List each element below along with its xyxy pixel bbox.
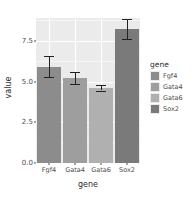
error-bar-cap-lower	[70, 84, 81, 85]
legend-key	[150, 82, 160, 92]
legend-label: Sox2	[163, 105, 179, 113]
legend-title: gene	[150, 60, 192, 69]
legend-label: Gata6	[163, 94, 183, 102]
error-bar-line	[49, 56, 50, 77]
error-bar-cap-upper	[70, 72, 81, 73]
legend-key	[150, 71, 160, 81]
legend-item[interactable]: Gata4	[150, 82, 192, 92]
legend-swatch	[151, 105, 159, 113]
x-tick-label: Gata6	[91, 166, 111, 174]
legend-items: Fgf4Gata4Gata6Sox2	[150, 71, 192, 114]
legend-label: Gata4	[163, 83, 183, 91]
error-bar-cap-upper	[96, 85, 107, 86]
x-tick-label: Gata4	[65, 166, 85, 174]
legend-item[interactable]: Sox2	[150, 104, 192, 114]
plot-panel	[36, 18, 140, 163]
gridline-minor	[36, 20, 140, 21]
x-tick-mark	[75, 163, 76, 165]
legend-item[interactable]: Gata6	[150, 93, 192, 103]
x-tick-mark	[127, 163, 128, 165]
error-bar-cap-upper	[44, 56, 55, 57]
legend-item[interactable]: Fgf4	[150, 71, 192, 81]
y-axis-title-text: value	[5, 77, 14, 99]
x-tick-label: Sox2	[119, 166, 135, 174]
x-axis-ticks: Fgf4Gata4Gata6Sox2	[36, 163, 140, 179]
y-tick-label: 7.5	[22, 37, 33, 45]
legend-key	[150, 104, 160, 114]
legend-key	[150, 93, 160, 103]
error-bar-cap-lower	[122, 39, 133, 40]
error-bar-line	[127, 19, 128, 39]
bar	[63, 78, 86, 163]
legend-swatch	[151, 94, 159, 102]
error-bar-cap-lower	[96, 91, 107, 92]
x-axis-title: gene	[36, 180, 140, 189]
y-tick-label: 0.0	[22, 159, 33, 167]
legend-swatch	[151, 72, 159, 80]
error-bar-cap-lower	[44, 77, 55, 78]
bar-chart: value 0.02.55.07.5 Fgf4Gata4Gata6Sox2 ge…	[0, 0, 192, 205]
x-tick-mark	[49, 163, 50, 165]
y-tick-label: 2.5	[22, 118, 33, 126]
legend: gene Fgf4Gata4Gata6Sox2	[150, 60, 192, 115]
error-bar-cap-upper	[122, 19, 133, 20]
legend-label: Fgf4	[163, 72, 177, 80]
bar	[115, 29, 138, 163]
y-axis-ticks: 0.02.55.07.5	[14, 0, 36, 205]
x-tick-mark	[101, 163, 102, 165]
bar	[37, 67, 60, 163]
error-bar-line	[75, 72, 76, 84]
bar	[89, 88, 112, 163]
y-tick-label: 5.0	[22, 78, 33, 86]
x-tick-label: Fgf4	[42, 166, 56, 174]
legend-swatch	[151, 83, 159, 91]
